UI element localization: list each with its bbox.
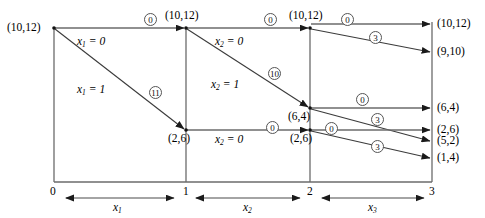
node-label-n3b: (9,10) [437, 46, 465, 58]
node-label-n0: (10,12) [7, 22, 41, 34]
cost-badge-c9: 3 [371, 113, 384, 126]
network-diagram: (10,12) (10,12) (2,6) (10,12) (6,4) (2,6… [0, 0, 485, 218]
axis-stage-sub: 2 [248, 206, 252, 215]
decision-label-x2-0: x2 = 0 [215, 36, 243, 48]
axis-stage-label-x1: x1 [113, 202, 122, 214]
axis-tick-3: 3 [429, 186, 435, 198]
decision-label-x1-0: x1 = 0 [77, 36, 105, 48]
cost-badge-c2: 11 [149, 86, 162, 99]
node-label-n3f: (1,4) [437, 152, 459, 164]
decision-sub: 2 [220, 40, 224, 49]
cost-badge-c11: 3 [371, 140, 384, 153]
graph-canvas [0, 0, 485, 218]
node-label-n3e: (5,2) [437, 135, 459, 147]
node-label-n3c: (6,4) [437, 102, 459, 114]
node-label-n2c: (2,6) [290, 133, 312, 145]
node-label-n1b: (2,6) [168, 133, 190, 145]
cost-badge-c6: 0 [341, 13, 354, 26]
decision-label-x2-1: x2 = 1 [211, 79, 239, 91]
decision-sub: 1 [82, 88, 86, 97]
cost-badge-c4: 10 [268, 67, 281, 80]
decision-label-x2-0-lower: x2 = 0 [215, 134, 243, 146]
decision-value: 0 [99, 35, 105, 47]
axis-stage-label-x2: x2 [243, 202, 252, 214]
decision-value: 1 [99, 83, 105, 95]
decision-value: 1 [233, 78, 239, 90]
decision-sub: 1 [82, 40, 86, 49]
cost-badge-c5: 0 [266, 121, 279, 134]
axis-stage-sub: 3 [373, 206, 377, 215]
decision-label-x1-1: x1 = 1 [77, 84, 105, 96]
axis-stage-sub: 1 [118, 206, 122, 215]
edge-group-stage1 [55, 28, 184, 129]
cost-badge-c7: 3 [369, 31, 382, 44]
node-label-n2a: (10,12) [289, 10, 323, 22]
axis-tick-1: 1 [183, 186, 189, 198]
axis-stage-label-x3: x3 [368, 202, 377, 214]
node-label-n1a: (10,12) [165, 10, 199, 22]
edge-n1a-n2b [187, 29, 308, 107]
decision-value: 0 [237, 133, 243, 145]
cost-badge-c10: 0 [325, 122, 338, 135]
cost-badge-c3: 0 [264, 13, 277, 26]
edge-n0-n1b [55, 29, 184, 129]
decision-sub: 2 [216, 83, 220, 92]
decision-value: 0 [237, 35, 243, 47]
cost-badge-c8: 0 [356, 93, 369, 106]
node-label-n2b: (6,4) [288, 111, 310, 123]
axis-tick-2: 2 [307, 186, 313, 198]
axis-tick-0: 0 [50, 186, 56, 198]
decision-sub: 2 [220, 138, 224, 147]
edge-group-stage3 [311, 24, 430, 158]
cost-badge-c1: 0 [144, 13, 157, 26]
node-label-n3a: (10,12) [437, 18, 471, 30]
